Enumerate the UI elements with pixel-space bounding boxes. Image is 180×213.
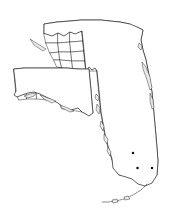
county-cell [58, 42, 71, 52]
florida-county-map-figure: Florida county outline map [0, 0, 180, 213]
marker-2 [136, 167, 138, 169]
panhandle-state-outline [14, 68, 93, 116]
key-island [112, 199, 118, 203]
county-cell [70, 41, 84, 52]
barrier-island [30, 39, 46, 51]
county-cell [46, 43, 59, 53]
county-cell [50, 52, 60, 60]
map-svg-canvas [0, 0, 180, 213]
marker-1 [132, 152, 134, 154]
barrier-island [96, 104, 100, 114]
barrier-island [95, 94, 99, 101]
florida-keys-chain [102, 184, 147, 202]
county-cell [59, 52, 72, 61]
marker-3 [151, 167, 153, 169]
county-cell [71, 51, 85, 61]
key-island [124, 196, 130, 200]
